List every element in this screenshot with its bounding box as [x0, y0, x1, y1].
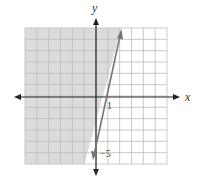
x-axis-right-arrow-icon — [173, 94, 180, 100]
y-axis-down-arrow-icon — [93, 169, 99, 176]
x-intercept-label: 1 — [107, 100, 112, 111]
x-axis-left-arrow-icon — [14, 94, 21, 100]
y-intercept-label: −5 — [100, 148, 111, 159]
y-axis-up-arrow-icon — [93, 18, 99, 25]
graph: y x 1 −5 — [0, 0, 201, 181]
x-axis-label: x — [184, 90, 191, 104]
y-axis-label: y — [91, 1, 98, 15]
